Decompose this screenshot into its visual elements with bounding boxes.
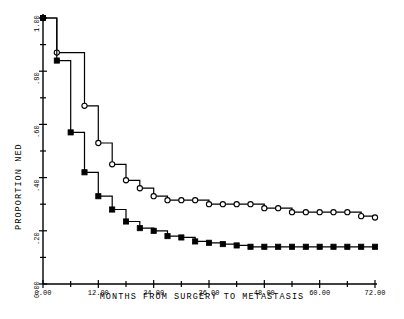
y-tick-label: 1.00 xyxy=(33,15,41,32)
open-circle-curve-marker xyxy=(234,202,239,207)
y-axis-title: PROPORTION NED xyxy=(14,143,24,230)
filled-square-curve-marker xyxy=(123,219,128,224)
filled-square-curve-marker xyxy=(54,58,59,63)
open-circle-curve-marker xyxy=(110,162,115,167)
filled-square-curve-marker xyxy=(206,240,211,245)
x-tick-label: 72.00 xyxy=(359,289,391,297)
open-circle-curve-marker xyxy=(179,198,184,203)
filled-square-curve-marker xyxy=(220,242,225,247)
filled-square-curve-marker xyxy=(82,170,87,175)
filled-square-curve-marker xyxy=(179,235,184,240)
open-circle-curve-marker xyxy=(137,186,142,191)
open-circle-curve-marker xyxy=(359,214,364,219)
filled-square-curve-marker xyxy=(359,244,364,249)
y-tick-label: .40 xyxy=(33,179,41,192)
open-circle-curve-marker xyxy=(82,103,87,108)
filled-square-curve-marker xyxy=(317,244,322,249)
y-tick-label: .60 xyxy=(33,126,41,139)
open-circle-curve-marker xyxy=(193,198,198,203)
filled-square-curve-marker xyxy=(345,244,350,249)
open-circle-curve-marker xyxy=(345,210,350,215)
open-circle-curve-marker xyxy=(220,202,225,207)
x-tick-label: 24.00 xyxy=(138,289,170,297)
x-tick-label: 12.00 xyxy=(82,289,114,297)
open-circle-curve-marker xyxy=(248,202,253,207)
kaplan-meier-figure: MONTHS FROM SURGERY TO METASTASIS PROPOR… xyxy=(0,0,404,319)
filled-square-curve-marker xyxy=(110,207,115,212)
open-circle-curve-marker xyxy=(262,206,267,211)
filled-square-curve-marker xyxy=(137,226,142,231)
filled-square-curve-marker xyxy=(262,244,267,249)
filled-square-curve-marker xyxy=(193,239,198,244)
filled-square-curve-marker xyxy=(248,244,253,249)
filled-square-curve-marker xyxy=(151,228,156,233)
filled-square-curve-marker xyxy=(96,194,101,199)
y-tick-label: .80 xyxy=(33,73,41,86)
x-tick-label: 36.00 xyxy=(193,289,225,297)
open-circle-curve-marker xyxy=(96,140,101,145)
open-circle-curve-marker xyxy=(165,198,170,203)
open-circle-curve-marker xyxy=(123,178,128,183)
filled-square-curve-marker xyxy=(303,244,308,249)
filled-square-curve-marker xyxy=(289,244,294,249)
x-tick-label: 0.00 xyxy=(27,289,59,297)
x-tick-label: 60.00 xyxy=(304,289,336,297)
x-tick-label: 48.00 xyxy=(248,289,280,297)
open-circle-curve-marker xyxy=(206,202,211,207)
open-circle-curve-marker xyxy=(331,210,336,215)
filled-square-curve-marker xyxy=(331,244,336,249)
filled-square-curve-marker xyxy=(165,234,170,239)
y-tick-label: .20 xyxy=(33,232,41,245)
filled-square-curve-marker xyxy=(234,243,239,248)
open-circle-curve-marker xyxy=(317,210,322,215)
y-tick-label: 0.00 xyxy=(33,281,41,298)
open-circle-curve-marker xyxy=(303,210,308,215)
open-circle-curve-marker xyxy=(276,206,281,211)
filled-square-curve-marker xyxy=(276,244,281,249)
open-circle-curve-marker xyxy=(151,194,156,199)
open-circle-curve-marker xyxy=(372,215,377,220)
open-circle-curve-marker xyxy=(289,210,294,215)
filled-square-curve-marker xyxy=(372,244,377,249)
filled-square-curve-marker xyxy=(40,15,45,20)
chart-canvas xyxy=(0,0,404,319)
filled-square-curve-marker xyxy=(68,130,73,135)
open-circle-curve-line xyxy=(43,18,375,218)
